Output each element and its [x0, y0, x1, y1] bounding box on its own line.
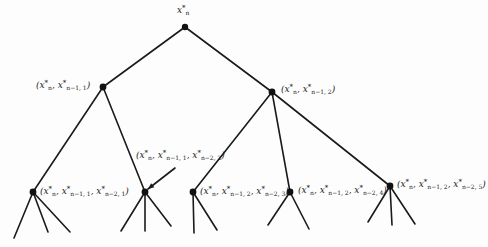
node-label-n11: (x*n, x*n−1, 1, x*n−2, 1) [40, 186, 129, 197]
node-label-n12: (x*n, x*n−1, 1, x*n−2, 2) [136, 150, 225, 161]
tree-node-dot [142, 189, 149, 196]
leaf-edge [390, 186, 392, 225]
tree-node-dot [100, 84, 107, 91]
tree-node-dot [387, 183, 394, 190]
leaf-edge [145, 192, 171, 226]
tree-edges [0, 0, 488, 247]
tree-edge [272, 92, 290, 192]
tree-node-dot [269, 89, 276, 96]
tree-edge [103, 27, 185, 87]
tree-edge [33, 87, 103, 192]
node-label-n2: (x*n, x*n−1, 2) [281, 84, 335, 95]
tree-edge [185, 27, 272, 92]
node-label-n25: (x*n, x*n−1, 2, x*n−2, 5) [397, 179, 486, 190]
leaf-edge [121, 192, 145, 231]
node-label-n1: (x*n, x*n−1, 1) [36, 80, 90, 91]
node-label-n23: (x*n, x*n−1, 2, x*n−2, 3) [200, 186, 289, 197]
tree-edge [103, 87, 145, 192]
node-label-root: x*n [177, 5, 189, 16]
leaf-edge [193, 192, 217, 230]
node-label-n24: (x*n, x*n−1, 2, x*n−2, 4) [298, 185, 387, 196]
tree-node-dot [182, 24, 188, 30]
leaf-edge [33, 192, 70, 232]
tree-edge [272, 92, 390, 186]
tree-diagram: x*n(x*n, x*n−1, 1)(x*n, x*n−1, 2)(x*n, x… [0, 0, 488, 247]
leaf-edge [14, 192, 33, 238]
tree-node-dot [190, 189, 197, 196]
tree-edge [193, 92, 272, 192]
leaf-edge [33, 192, 48, 232]
leaf-edge [290, 192, 309, 229]
leaf-edge [390, 186, 415, 224]
leaf-edge [193, 192, 194, 233]
tree-node-dot [30, 189, 37, 196]
